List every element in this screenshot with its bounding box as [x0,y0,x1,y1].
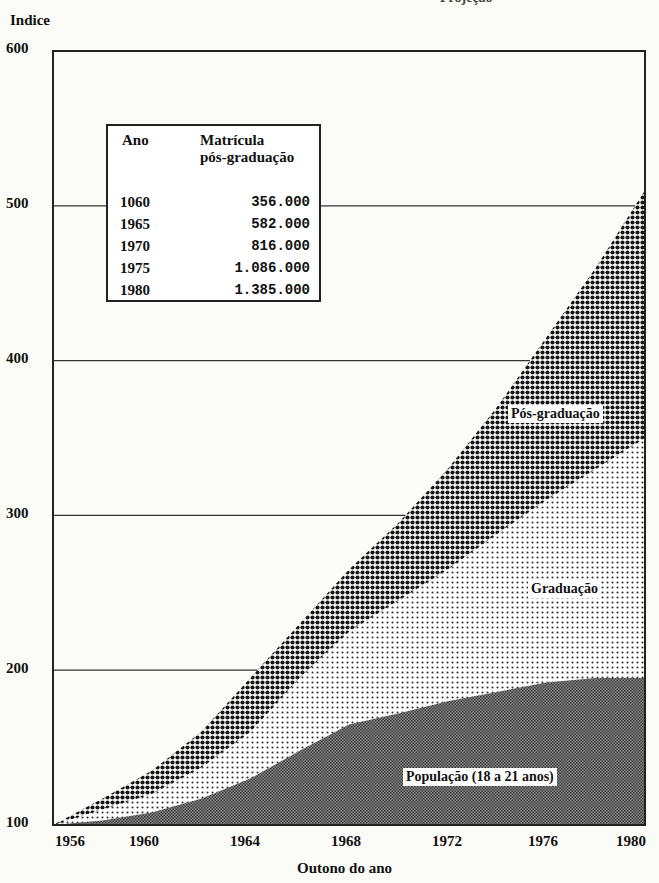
table-header-matricula: Matrícula pós-graduação [200,132,294,166]
x-tick-1976: 1976 [528,833,558,850]
table-cell-year: 1965 [120,216,150,233]
table-cell-value: 1.086.000 [234,260,310,276]
table-cell-year: 1970 [120,238,150,255]
table-row: 1970 816.000 [120,238,310,258]
table-row: 1980 1.385.000 [120,282,310,302]
table-cell-year: 1980 [120,282,150,299]
table-cell-value: 356.000 [251,194,310,210]
table-cell-value: 582.000 [251,216,310,232]
x-tick-1956: 1956 [55,833,85,850]
table-header-ano: Ano [122,132,149,149]
table-header-matricula-line2: pós-graduação [200,149,294,166]
table-cell-value: 1.385.000 [234,282,310,298]
x-axis-title: Outono do ano [0,860,659,877]
x-tick-1968: 1968 [331,833,361,850]
table-header-matricula-line1: Matrícula [200,132,294,149]
table-row: 1060 356.000 [120,194,310,214]
table-cell-year: 1060 [120,194,150,211]
label-populacao: População (18 a 21 anos) [403,768,557,786]
x-tick-1964: 1964 [230,833,260,850]
label-pos-graduacao: Pós-graduação [508,405,603,423]
table-cell-value: 816.000 [251,238,310,254]
label-graduacao: Graduação [528,580,601,598]
x-tick-1980: 1980 [616,833,646,850]
x-tick-1960: 1960 [129,833,159,850]
table-cell-year: 1975 [120,260,150,277]
table-row: 1975 1.086.000 [120,260,310,280]
inset-enrollment-table: Ano Matrícula pós-graduação 1060 356.000… [106,124,321,302]
x-tick-1972: 1972 [432,833,462,850]
table-row: 1965 582.000 [120,216,310,236]
chart-plot-area [0,0,659,883]
